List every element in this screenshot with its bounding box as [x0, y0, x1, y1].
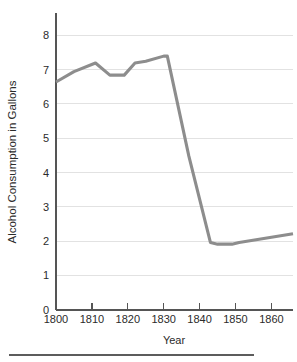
y-axis-title: Alcohol Consumption in Gallons	[6, 80, 18, 243]
x-tick-label-1800: 1800	[44, 313, 68, 325]
y-tick-label-5: 5	[43, 132, 49, 144]
line-chart: 8 7 6 5 4 3 2 1 0 1800 1810 1820 1830 18…	[0, 0, 297, 362]
data-line-series-0	[56, 56, 293, 244]
x-tick-label-1840: 1840	[187, 313, 211, 325]
x-tick-label-1830: 1830	[151, 313, 175, 325]
x-tick-label-1820: 1820	[116, 313, 140, 325]
y-axis: 8 7 6 5 4 3 2 1 0	[43, 13, 56, 316]
y-tick-label-1: 1	[43, 269, 49, 281]
y-tick-label-2: 2	[43, 235, 49, 247]
x-tick-label-1850: 1850	[223, 313, 247, 325]
x-tick-label-1810: 1810	[80, 313, 104, 325]
x-tick-label-1860: 1860	[259, 313, 283, 325]
y-tick-label-4: 4	[43, 167, 49, 179]
y-tick-label-3: 3	[43, 201, 49, 213]
y-tick-label-8: 8	[43, 29, 49, 41]
chart-figure: 8 7 6 5 4 3 2 1 0 1800 1810 1820 1830 18…	[0, 0, 297, 362]
y-tick-label-6: 6	[43, 98, 49, 110]
y-tick-label-7: 7	[43, 64, 49, 76]
x-axis-title: Year	[163, 334, 186, 346]
x-axis: 1800 1810 1820 1830 1840 1850 1860	[44, 303, 293, 325]
